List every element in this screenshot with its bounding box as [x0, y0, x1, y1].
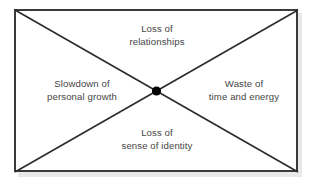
diagram-container: Loss of relationships Slowdown of person… — [0, 0, 315, 185]
quadrant-label-left-line2: personal growth — [20, 90, 144, 103]
quadrant-label-top: Loss of relationships — [96, 22, 218, 48]
quadrant-label-left: Slowdown of personal growth — [20, 77, 144, 103]
quadrant-label-bottom: Loss of sense of identity — [96, 126, 218, 152]
quadrant-label-bottom-line2: sense of identity — [96, 139, 218, 152]
quadrant-label-top-line1: Loss of — [96, 22, 218, 35]
quadrant-label-right-line2: time and energy — [182, 90, 306, 103]
quadrant-label-left-line1: Slowdown of — [20, 77, 144, 90]
quadrant-label-right: Waste of time and energy — [182, 77, 306, 103]
center-intersection-dot — [152, 86, 161, 95]
quadrant-label-bottom-line1: Loss of — [96, 126, 218, 139]
quadrant-label-top-line2: relationships — [96, 35, 218, 48]
quadrant-label-right-line1: Waste of — [182, 77, 306, 90]
